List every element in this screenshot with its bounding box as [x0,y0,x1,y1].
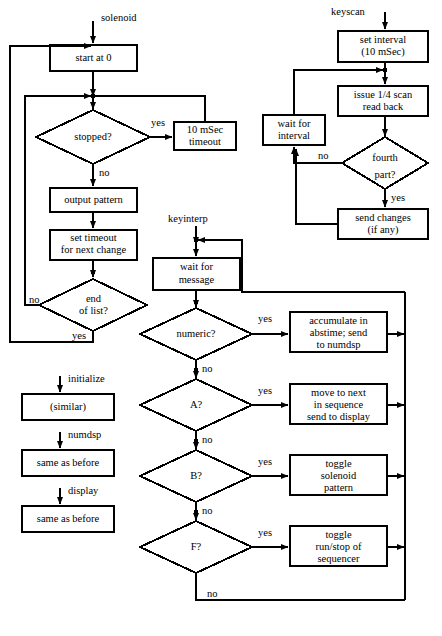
junction-dot-keyinterp [194,238,198,242]
junction-dot-f [194,510,198,514]
edge-sendchanges-feedback [296,149,338,224]
node-start-at-0 [50,45,137,71]
node-10msec-timeout [174,122,236,150]
edge-fourth-no [294,147,342,163]
node-f-key [140,521,252,573]
junction-dot-b [194,439,198,443]
junction-dot-numeric [194,300,198,304]
node-set-timeout [50,230,137,260]
node-wait-for-interval [263,115,325,145]
node-fourth-part [342,137,428,189]
node-display-stub [22,506,114,532]
node-toggle-solenoid [290,455,387,495]
node-a-key [140,379,252,431]
node-numeric [140,308,252,360]
node-output-pattern [50,188,137,212]
node-set-interval [338,31,428,62]
node-end-of-list [39,279,147,331]
edge-endlist-yes [10,46,93,342]
node-move-to-next [290,384,387,424]
junction-dot-keyscan [383,68,387,72]
node-initialize-stub [22,394,114,420]
node-b-key [140,450,252,502]
flowchart-lines [0,0,442,636]
node-wait-for-message [153,258,240,290]
node-issue-scan [338,86,428,116]
junction-dot-a [194,368,198,372]
junction-dot-stopped [91,94,95,98]
node-toggle-runstop [290,526,387,566]
node-numdsp-stub [22,450,114,476]
node-accumulate [290,312,387,352]
edge-collector-to-keyinterp [198,240,405,292]
node-stopped [36,110,150,164]
junction-dot-endlist [91,270,95,274]
flowchart-canvas: solenoid start at 0 stopped? yes 10 mSec… [0,0,442,636]
node-send-changes [338,209,428,239]
edge-f-no [196,573,405,600]
